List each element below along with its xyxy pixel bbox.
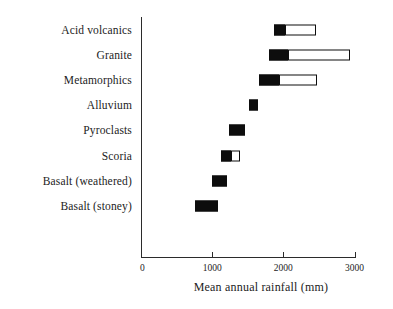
category-axis-labels: Acid volcanicsGraniteMetamorphicsAlluviu… [0, 0, 132, 309]
bar-segment-solid [195, 200, 218, 211]
bar-segment-open [279, 75, 317, 86]
bar-row [141, 200, 381, 211]
category-label: Metamorphics [4, 74, 132, 86]
x-tick-mark [355, 252, 356, 258]
bar-segment-open [231, 150, 240, 161]
x-axis-line [141, 257, 356, 258]
bar-row [141, 25, 381, 36]
bar-segment-solid [249, 100, 258, 111]
bar-segment-solid [259, 75, 279, 86]
bar-row [141, 50, 381, 61]
x-tick-label: 3000 [345, 263, 364, 273]
x-tick-label: 0 [140, 263, 145, 273]
bar-row [141, 125, 381, 136]
category-label: Granite [4, 49, 132, 61]
bar-row [141, 175, 381, 186]
bar-segment-open [285, 25, 316, 36]
category-label: Scoria [4, 150, 132, 162]
x-tick-label: 1000 [203, 263, 222, 273]
bar-segment-solid [229, 125, 245, 136]
category-label: Pyroclasts [4, 124, 132, 136]
bar-segment-solid [212, 175, 227, 186]
x-tick-label: 2000 [274, 263, 293, 273]
bar-segment-solid [269, 50, 288, 61]
x-tick-mark [212, 252, 213, 258]
plot-area: 0100020003000 [141, 17, 381, 258]
bar-row [141, 100, 381, 111]
bar-row [141, 75, 381, 86]
category-label: Acid volcanics [4, 24, 132, 36]
bar-segment-solid [274, 25, 285, 36]
x-axis-title: Mean annual rainfall (mm) [141, 280, 381, 295]
x-tick-mark [141, 252, 142, 258]
category-label: Basalt (stoney) [4, 200, 132, 212]
bar-row [141, 150, 381, 161]
bar-segment-solid [221, 150, 231, 161]
category-label: Basalt (weathered) [4, 175, 132, 187]
category-label: Alluvium [4, 99, 132, 111]
x-tick-mark [283, 252, 284, 258]
rainfall-range-chart: Acid volcanicsGraniteMetamorphicsAlluviu… [0, 0, 393, 309]
bar-segment-open [288, 50, 350, 61]
